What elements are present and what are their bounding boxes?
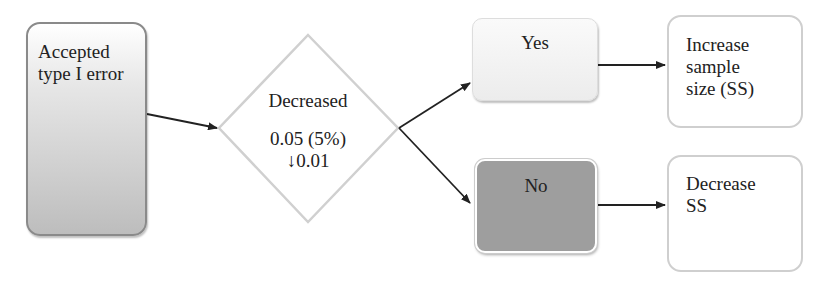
- decision-title: Decreased: [238, 90, 378, 112]
- start-label: Accepted type I error: [38, 41, 123, 85]
- arrow-decision-to-no: [399, 128, 470, 203]
- no-label: No: [477, 175, 595, 197]
- no-node: No: [475, 159, 597, 253]
- accepted-type-i-error-node: Accepted type I error: [26, 22, 147, 236]
- increase-sample-size-node: Increase sample size (SS): [667, 15, 803, 128]
- increase-label: Increase sample size (SS): [686, 34, 754, 100]
- yes-node: Yes: [472, 18, 598, 101]
- arrow-decision-to-yes: [399, 83, 470, 128]
- decrease-ss-node: Decrease SS: [667, 155, 803, 272]
- decrease-label: Decrease SS: [686, 173, 756, 217]
- arrow-start-to-decision: [147, 114, 217, 128]
- yes-label: Yes: [473, 32, 597, 54]
- decision-new-value: ↓0.01: [238, 150, 378, 172]
- decision-value: 0.05 (5%): [238, 128, 378, 150]
